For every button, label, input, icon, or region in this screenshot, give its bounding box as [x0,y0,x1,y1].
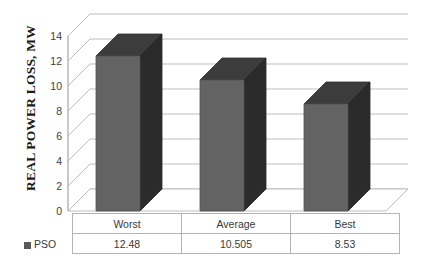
y-tick-label: 4 [36,156,62,167]
table-cell-value: 8.53 [291,234,400,254]
table-cell-value: 12.48 [73,234,182,254]
bar-worst-front [96,56,140,211]
y-tick-label: 10 [36,81,62,92]
bar-best [304,82,370,211]
y-tick-label: 8 [36,106,62,117]
table-cell-value: 10.505 [182,234,291,254]
table-row-categories: Worst Average Best [20,214,400,234]
bar-average-front [200,80,244,211]
y-tick-label: 14 [36,31,62,42]
data-table: Worst Average Best PSO 12.48 10.505 8.53 [20,213,400,254]
chart-figure: REAL POWER LOSS, MW [0,0,424,269]
bar-average-side [244,58,266,211]
legend-spacer [20,214,73,234]
y-tick-label: 2 [36,181,62,192]
legend-swatch-icon [24,242,31,249]
legend-entry-pso: PSO [20,234,73,254]
bar-best-side [348,82,370,211]
bar-worst [96,34,162,211]
y-tick-label: 12 [36,56,62,67]
gridlines-depth [68,14,90,211]
bar-average [200,58,266,211]
table-row-values: PSO 12.48 10.505 8.53 [20,234,400,254]
y-tick-label: 6 [36,131,62,142]
table-cell-category: Best [291,214,400,234]
table-cell-category: Worst [73,214,182,234]
bar-best-front [304,104,348,211]
bar-worst-side [140,34,162,211]
legend-label: PSO [34,238,56,250]
table-cell-category: Average [182,214,291,234]
